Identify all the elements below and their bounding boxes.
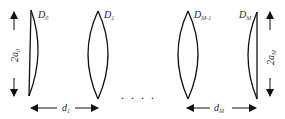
lens-dm-1-label: DM-1 [193, 9, 211, 21]
distance-label-dm: dM [214, 102, 225, 114]
lens-d1-label: D1 [103, 9, 114, 21]
lens-dm-label: DM [238, 9, 252, 21]
lens-dm [248, 12, 257, 99]
aperture-label-right: 2aM [265, 49, 277, 65]
lens-d1 [88, 11, 108, 99]
ellipsis: . . . . [121, 88, 156, 102]
distance-label-d1: d1 [62, 102, 70, 114]
aperture-label-left: 2a0 [9, 49, 21, 62]
lens-d0 [29, 10, 38, 96]
lens-dm-1 [178, 11, 198, 99]
lens-d0-label: D0 [37, 9, 48, 21]
lens-diagram: D0 2a0 D1 d1 . . . . DM-1 DM 2aM dM [0, 0, 285, 119]
